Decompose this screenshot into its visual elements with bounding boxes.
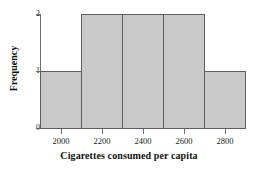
- x-tick-mark-2600: [184, 129, 185, 134]
- x-tick-label-2200: 2200: [82, 136, 122, 146]
- x-tick-mark-2800: [225, 129, 226, 134]
- x-tick-mark-2200: [102, 129, 103, 134]
- y-tick-mark-2: [36, 14, 41, 15]
- histogram-bar: [81, 14, 123, 129]
- y-tick-2: 2: [0, 10, 40, 18]
- x-tick-mark-2000: [61, 129, 62, 134]
- y-axis-title: Frequency: [8, 34, 19, 104]
- x-tick-mark-2400: [143, 129, 144, 134]
- x-tick-label-2600: 2600: [164, 136, 204, 146]
- histogram-bar: [122, 14, 164, 129]
- x-axis-title: Cigarettes consumed per capita: [0, 150, 258, 161]
- histogram-bar: [40, 71, 82, 129]
- y-tick-0: 0: [0, 124, 40, 132]
- x-tick-label-2800: 2800: [205, 136, 245, 146]
- histogram-bar: [163, 14, 205, 129]
- histogram-chart: 0 1 2 2000 2200 2400 2600 2800 Cigarette…: [0, 0, 258, 170]
- x-tick-label-2400: 2400: [123, 136, 163, 146]
- y-tick-1: 1: [0, 67, 40, 75]
- x-tick-label-2000: 2000: [41, 136, 81, 146]
- histogram-bar: [204, 71, 246, 129]
